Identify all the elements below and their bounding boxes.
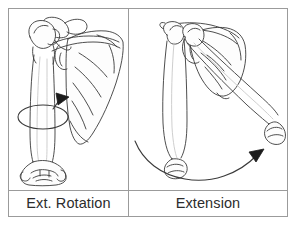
humerus-scapula-lateral-with-extension-arc-arrow bbox=[129, 9, 287, 190]
panel-grid: Ext. Rotation Extension bbox=[9, 9, 287, 216]
label-extension: Extension bbox=[129, 191, 287, 216]
panel-extension-illustration bbox=[129, 9, 287, 190]
label-ext-rotation: Ext. Rotation bbox=[9, 191, 128, 216]
figure-root: Ext. Rotation Extension bbox=[0, 0, 296, 228]
label-extension-text: Extension bbox=[176, 196, 241, 211]
humerus-scapula-anterior-with-rotation-arrow bbox=[9, 9, 128, 190]
panel-ext-rotation-illustration bbox=[9, 9, 128, 190]
label-ext-rotation-text: Ext. Rotation bbox=[26, 196, 110, 211]
